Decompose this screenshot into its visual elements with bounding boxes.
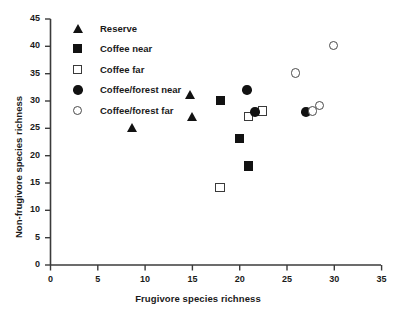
data-point-coffee-far-0 bbox=[215, 183, 224, 192]
data-point-coffee-forest-far-3 bbox=[329, 41, 338, 50]
data-point-coffee-forest-far-2 bbox=[315, 101, 324, 110]
data-point-coffee-forest-near-0 bbox=[242, 85, 252, 95]
data-point-coffee-forest-far-0 bbox=[291, 68, 300, 77]
data-point-reserve-2 bbox=[187, 112, 197, 121]
data-point-coffee-forest-near-1 bbox=[250, 107, 260, 117]
data-point-reserve-0 bbox=[127, 123, 137, 132]
data-point-coffee-near-0 bbox=[216, 96, 225, 105]
data-point-coffee-near-1 bbox=[235, 134, 244, 143]
scatter-plot-figure: 45 40 35 30 25 20 15 10 5 0 0 5 10 15 20… bbox=[0, 0, 396, 318]
data-points-layer bbox=[0, 0, 396, 318]
data-point-coffee-near-2 bbox=[244, 161, 253, 170]
data-point-reserve-1 bbox=[185, 90, 195, 99]
